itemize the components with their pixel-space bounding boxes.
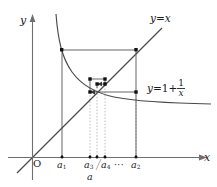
origin-label: O (33, 159, 41, 169)
tick-a4-sub: 4 (107, 164, 111, 170)
point-a3-identity (88, 90, 91, 93)
tick-a2-sub: 2 (137, 164, 141, 170)
hyperbola-curve (56, 14, 211, 104)
point-a3-hyperbola (88, 77, 91, 80)
identity-eq: = (156, 12, 165, 24)
point-tick-a (96, 156, 99, 159)
point-a5-identity (95, 82, 98, 85)
limit-point-label: a (87, 172, 93, 182)
fraction-numerator: 1 (177, 79, 185, 88)
tick-a3-sub: 3 (90, 164, 94, 170)
tick-label-a2: a2 (131, 160, 140, 171)
y-axis-label: y (20, 15, 26, 26)
y-axis-arrow (30, 14, 36, 22)
identity-line-label: y=x (150, 13, 171, 24)
tick-label-a3: a3 (84, 160, 93, 171)
point-a1-hyperbola (60, 48, 63, 51)
tick-a1-sub: 1 (63, 164, 67, 170)
hyperbola-curve-label: y=1+1x (147, 79, 185, 98)
tick-label-ellipsis: ··· (114, 161, 124, 170)
hyperbola-eq: = (153, 82, 162, 94)
tick-label-a4: a4 (101, 160, 110, 171)
point-a2-identity (134, 48, 137, 51)
x-axis-label: x (204, 152, 210, 163)
dotted-guide-lines (90, 79, 136, 157)
point-a2-hyperbola (134, 90, 137, 93)
point-a4-identity (103, 77, 106, 80)
cobweb-construction (62, 50, 136, 157)
cobweb-diagram-figure: y x O y=x y=1+1x a1 a3 a4 ··· a2 a (0, 0, 217, 187)
point-a4-hyperbola (103, 82, 106, 85)
tick-label-a1: a1 (57, 160, 66, 171)
hyperbola-fraction: 1x (177, 79, 185, 98)
fraction-denominator: x (177, 88, 185, 98)
identity-rhs: x (165, 12, 171, 24)
hyperbola-plus: + (168, 82, 177, 94)
